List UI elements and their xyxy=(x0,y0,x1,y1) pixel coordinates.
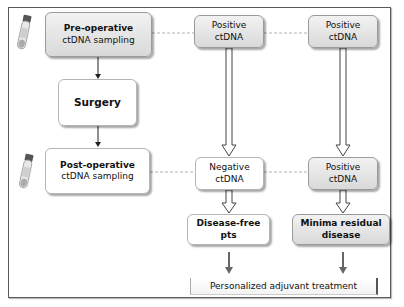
node-subtitle: disease xyxy=(322,230,361,241)
node-subtitle: ctDNA xyxy=(215,174,243,185)
node-subtitle: ctDNA sampling xyxy=(61,171,133,182)
node-title: Positive xyxy=(326,162,361,173)
node-subtitle: pts xyxy=(220,230,236,241)
node-title: Positive xyxy=(212,20,247,31)
arrow-surgery-to-post xyxy=(95,126,101,147)
node-subtitle: ctDNA xyxy=(329,174,357,185)
post-operative-sampling-node: Post-operative ctDNA sampling xyxy=(45,148,150,194)
node-subtitle: ctDNA xyxy=(329,32,357,43)
positive-ctdna-node-2: Positive ctDNA xyxy=(308,15,378,48)
negative-ctdna-node: Negative ctDNA xyxy=(195,157,264,190)
positive-ctdna-node-3: Positive ctDNA xyxy=(308,157,378,190)
blood-tube-icon xyxy=(16,14,32,52)
hollow-arrow-negative-to-disease-free xyxy=(222,190,236,213)
node-title: Positive xyxy=(326,20,361,31)
node-title: Minima residual xyxy=(300,218,381,229)
positive-ctdna-node-1: Positive ctDNA xyxy=(194,15,264,48)
hollow-arrow-positive3-to-mrd xyxy=(336,190,350,213)
disease-free-node: Disease-free pts xyxy=(187,214,270,245)
node-subtitle: ctDNA sampling xyxy=(62,35,134,46)
node-title: Post-operative xyxy=(60,160,135,171)
node-title: Pre-operative xyxy=(64,23,133,34)
arrow-pre-to-surgery xyxy=(95,57,101,79)
hollow-arrow-positive1-to-negative xyxy=(222,48,236,156)
node-title: Negative xyxy=(209,162,249,173)
node-title: Surgery xyxy=(74,96,121,109)
minimal-residual-disease-node: Minima residual disease xyxy=(292,214,390,245)
arrow-disease-free-to-treatment xyxy=(225,252,233,274)
node-title: Disease-free xyxy=(197,218,261,229)
personalized-treatment-node: Personalized adjuvant treatment xyxy=(190,278,378,295)
pre-operative-sampling-node: Pre-operative ctDNA sampling xyxy=(45,12,152,57)
node-subtitle: ctDNA xyxy=(215,32,243,43)
blood-tube-icon xyxy=(18,153,34,191)
hollow-arrow-positive2-to-positive3 xyxy=(336,48,350,156)
arrow-mrd-to-treatment xyxy=(339,252,347,274)
surgery-node: Surgery xyxy=(58,79,137,126)
